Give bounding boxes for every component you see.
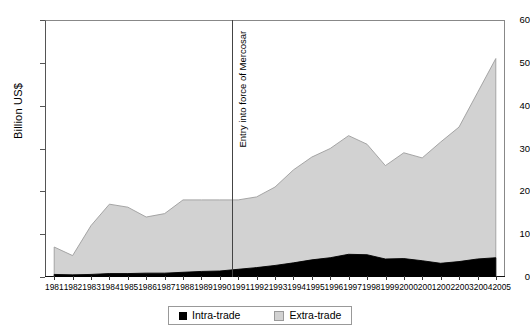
stacked-area-plot <box>45 20 505 277</box>
x-tick-mark-1991 <box>229 276 247 280</box>
x-tick-label-2004: 2004 <box>474 281 493 295</box>
x-tick-label-1981: 1981 <box>45 281 64 295</box>
x-tick-label-1991: 1991 <box>231 281 250 295</box>
legend-entry-extra-trade: Extra-trade <box>274 310 341 321</box>
x-tick-label-1992: 1992 <box>250 281 269 295</box>
mercosur-annotation-line <box>232 20 233 277</box>
x-tick-mark-1999 <box>376 276 394 280</box>
x-tick-mark-1997 <box>340 276 358 280</box>
x-tick-label-2001: 2001 <box>418 281 437 295</box>
x-tick-label-1985: 1985 <box>120 281 139 295</box>
x-tick-mark-1988 <box>174 276 192 280</box>
x-tick-label-1984: 1984 <box>101 281 120 295</box>
x-tick-label-2000: 2000 <box>399 281 418 295</box>
x-tick-mark-1981 <box>45 276 63 280</box>
x-tick-mark-1986 <box>137 276 155 280</box>
x-tick-mark-2002 <box>432 276 450 280</box>
x-tick-mark-1983 <box>82 276 100 280</box>
x-tick-mark-1990 <box>211 276 229 280</box>
x-tick-mark-1985 <box>119 276 137 280</box>
black-square-icon <box>179 312 187 320</box>
y-axis-title: Billion US$ <box>12 61 24 161</box>
x-tick-label-1993: 1993 <box>269 281 288 295</box>
x-tick-mark-2004 <box>468 276 486 280</box>
x-tick-label-1998: 1998 <box>362 281 381 295</box>
legend-label: Extra-trade <box>289 310 341 321</box>
x-tick-mark-1989 <box>192 276 210 280</box>
x-tick-mark-1996 <box>321 276 339 280</box>
x-tick-mark-2003 <box>450 276 468 280</box>
mercosur-annotation-label: Entry into force of Mercosar <box>237 56 248 148</box>
x-tick-label-1983: 1983 <box>82 281 101 295</box>
x-tick-label-1987: 1987 <box>157 281 176 295</box>
x-tick-mark-1998 <box>358 276 376 280</box>
x-tick-mark-2000 <box>395 276 413 280</box>
x-tick-label-1986: 1986 <box>138 281 157 295</box>
legend-label: Intra-trade <box>192 310 240 321</box>
x-tick-label-1994: 1994 <box>287 281 306 295</box>
x-tick-label-1988: 1988 <box>175 281 194 295</box>
x-tick-mark-1995 <box>303 276 321 280</box>
legend-entry-intra-trade: Intra-trade <box>179 310 240 321</box>
chart-legend: Intra-tradeExtra-trade <box>168 306 352 325</box>
x-tick-mark-1982 <box>63 276 81 280</box>
x-tick-label-1999: 1999 <box>381 281 400 295</box>
x-tick-mark-1992 <box>247 276 265 280</box>
x-tick-label-1997: 1997 <box>343 281 362 295</box>
x-tick-label-1989: 1989 <box>194 281 213 295</box>
x-axis-tick-marks <box>45 276 505 280</box>
x-tick-label-1996: 1996 <box>325 281 344 295</box>
x-tick-mark-1984 <box>100 276 118 280</box>
x-tick-mark-1987 <box>155 276 173 280</box>
x-tick-mark-2001 <box>413 276 431 280</box>
x-tick-label-2002: 2002 <box>436 281 455 295</box>
x-tick-label-2005: 2005 <box>492 281 511 295</box>
x-tick-mark-1993 <box>266 276 284 280</box>
x-tick-mark-2005 <box>487 276 505 280</box>
extra-trade-area <box>54 59 496 277</box>
chart-figure: Billion US$ 0102030405060 Entry into for… <box>0 0 530 335</box>
x-tick-label-1995: 1995 <box>306 281 325 295</box>
x-tick-label-2003: 2003 <box>455 281 474 295</box>
gray-square-icon <box>274 311 284 321</box>
x-axis-labels: 1981198219831984198519861987198819891990… <box>45 281 505 295</box>
x-tick-label-1982: 1982 <box>64 281 83 295</box>
x-tick-label-1990: 1990 <box>213 281 232 295</box>
x-tick-mark-1994 <box>284 276 302 280</box>
